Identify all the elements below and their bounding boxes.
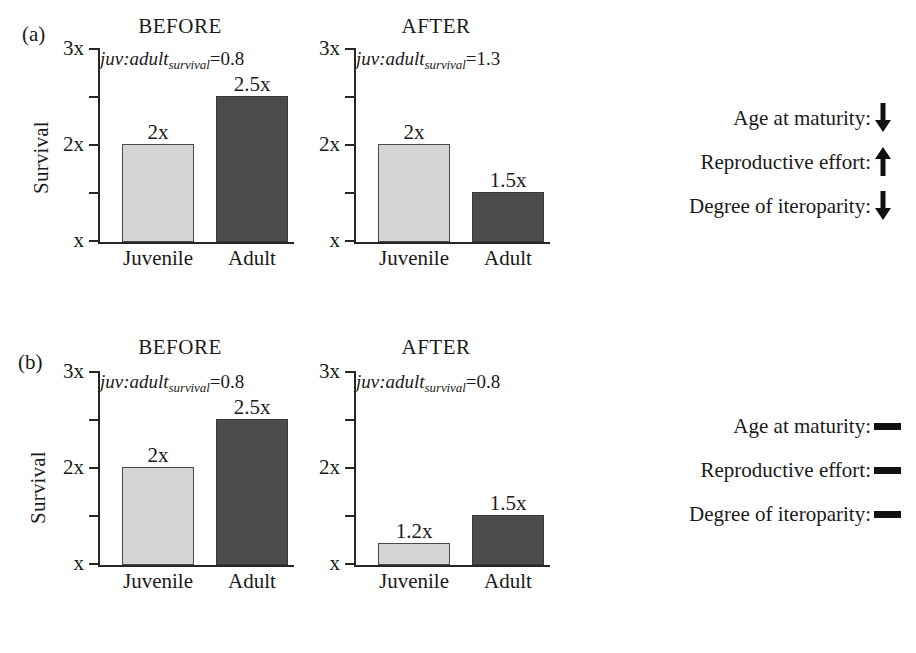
bar-juvenile: 2x [122, 144, 194, 242]
trait-row-reproductive-effort: Reproductive effort: [608, 140, 908, 184]
x-category-labels: Juvenile Adult [100, 571, 294, 601]
x-label-juvenile: Juvenile [106, 571, 210, 592]
panel-a-after: AFTER juv:adultsurvival=1.3 3x 2x [318, 0, 568, 326]
y-tick-2-5x [89, 96, 98, 98]
bar-value-adult: 1.5x [490, 170, 527, 191]
row-label-a: (a) [22, 24, 45, 45]
y-tick-3x: 3x [89, 371, 98, 373]
x-label-juvenile: Juvenile [362, 248, 466, 269]
y-tick-2-5x [345, 96, 354, 98]
y-axis-title-a: Survival [29, 98, 54, 218]
y-tick-x: x [89, 563, 98, 565]
y-tick-label-x: x [74, 553, 85, 574]
x-axis-line [354, 242, 550, 244]
bar-group: 2x 2.5x [100, 371, 294, 565]
x-axis-line [98, 242, 294, 244]
bar-adult: 2.5x [216, 96, 288, 242]
bar-value-adult: 2.5x [234, 74, 271, 95]
no-change-bar-icon [871, 423, 908, 430]
trait-row-reproductive-effort: Reproductive effort: [608, 448, 908, 492]
y-tick-label-3x: 3x [63, 361, 84, 382]
y-tick-label-x: x [330, 553, 341, 574]
y-tick-2x: 2x [89, 467, 98, 469]
x-axis-line [98, 565, 294, 567]
x-axis-line [354, 565, 550, 567]
bar-juvenile: 2x [122, 467, 194, 565]
y-tick-2-5x [89, 419, 98, 421]
y-tick-label-2x: 2x [63, 134, 84, 155]
trait-annotations-a: Age at maturity: Reproductive effort: De… [608, 96, 908, 228]
x-label-adult: Adult [210, 571, 294, 592]
figure-row-a: (a) Survival BEFORE juv:adultsurvival=0.… [0, 0, 916, 326]
plot-area-a-after: 3x 2x x 2x [354, 48, 550, 244]
arrow-up-icon [871, 147, 908, 177]
bar-adult: 1.5x [472, 192, 544, 242]
y-tick-label-x: x [74, 230, 85, 251]
bar-value-juvenile: 2x [404, 122, 425, 143]
y-tick-label-3x: 3x [63, 38, 84, 59]
y-tick-2-5x [345, 419, 354, 421]
y-tick-label-3x: 3x [319, 361, 340, 382]
x-label-juvenile: Juvenile [106, 248, 210, 269]
panel-title-a-after: AFTER [318, 14, 554, 39]
y-tick-2x: 2x [345, 467, 354, 469]
y-tick-label-2x: 2x [319, 134, 340, 155]
bar-group: 2x 1.5x [356, 48, 550, 242]
y-tick-1-5x [345, 515, 354, 517]
trait-label: Age at maturity: [733, 108, 871, 129]
y-tick-2x: 2x [89, 144, 98, 146]
y-tick-x: x [345, 563, 354, 565]
trait-label: Reproductive effort: [701, 460, 871, 481]
y-tick-3x: 3x [345, 371, 354, 373]
plot-area-a-before: 3x 2x x 2x [98, 48, 294, 244]
figure-row-b: (b) Survival BEFORE juv:adultsurvival=0.… [0, 327, 916, 653]
bar-value-juvenile: 2x [148, 445, 169, 466]
trait-annotations-b: Age at maturity: Reproductive effort: De… [608, 404, 908, 536]
panel-a-before: BEFORE juv:adultsurvival=0.8 3x 2x [62, 0, 312, 326]
bar-value-adult: 2.5x [234, 397, 271, 418]
bar-group: 1.2x 1.5x [356, 371, 550, 565]
bar-group: 2x 2.5x [100, 48, 294, 242]
bar-value-juvenile: 2x [148, 122, 169, 143]
y-tick-3x: 3x [89, 48, 98, 50]
trait-label: Reproductive effort: [701, 152, 871, 173]
trait-label: Age at maturity: [733, 416, 871, 437]
x-label-juvenile: Juvenile [362, 571, 466, 592]
y-tick-x: x [89, 240, 98, 242]
panel-title-b-after: AFTER [318, 335, 554, 360]
trait-label: Degree of iteroparity: [689, 504, 871, 525]
bar-adult: 1.5x [472, 515, 544, 565]
bar-value-adult: 1.5x [490, 493, 527, 514]
arrow-down-icon [871, 191, 908, 221]
bar-value-juvenile: 1.2x [396, 521, 433, 542]
panel-title-a-before: BEFORE [62, 14, 298, 39]
bar-juvenile: 2x [378, 144, 450, 242]
x-label-adult: Adult [466, 571, 550, 592]
row-label-b: (b) [18, 352, 43, 373]
y-tick-1-5x [89, 515, 98, 517]
y-tick-1-5x [89, 192, 98, 194]
trait-row-age-at-maturity: Age at maturity: [608, 96, 908, 140]
y-tick-3x: 3x [345, 48, 354, 50]
x-category-labels: Juvenile Adult [100, 248, 294, 278]
bar-juvenile: 1.2x [378, 543, 450, 565]
no-change-bar-icon [871, 511, 908, 518]
x-category-labels: Juvenile Adult [356, 571, 550, 601]
y-tick-label-2x: 2x [63, 457, 84, 478]
y-tick-x: x [345, 240, 354, 242]
bar-adult: 2.5x [216, 419, 288, 565]
arrow-down-icon [871, 103, 908, 133]
y-tick-label-x: x [330, 230, 341, 251]
x-label-adult: Adult [466, 248, 550, 269]
figure-root: (a) Survival BEFORE juv:adultsurvival=0.… [0, 0, 916, 653]
trait-row-degree-of-iteroparity: Degree of iteroparity: [608, 492, 908, 536]
y-tick-2x: 2x [345, 144, 354, 146]
panel-b-after: AFTER juv:adultsurvival=0.8 3x 2x [318, 327, 568, 653]
panel-b-before: BEFORE juv:adultsurvival=0.8 3x 2x [62, 327, 312, 653]
plot-area-b-after: 3x 2x x 1.2x [354, 371, 550, 567]
x-category-labels: Juvenile Adult [356, 248, 550, 278]
y-tick-label-3x: 3x [319, 38, 340, 59]
y-tick-label-2x: 2x [319, 457, 340, 478]
plot-area-b-before: 3x 2x x 2x [98, 371, 294, 567]
no-change-bar-icon [871, 467, 908, 474]
